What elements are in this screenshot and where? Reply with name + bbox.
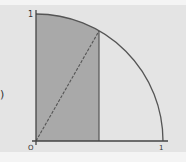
x-axis-one-label: 1 — [159, 144, 163, 152]
shaded-rectangle — [36, 14, 99, 141]
quarter-circle-diagram: 1 O 1 ) — [0, 0, 186, 162]
y-axis-one-label: 1 — [28, 10, 33, 19]
origin-label: O — [28, 144, 34, 152]
left-edge-fragment: ) — [0, 88, 4, 101]
